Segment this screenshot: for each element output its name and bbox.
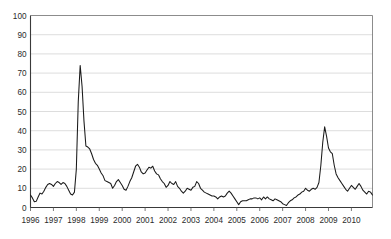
x-tick-label: 2008 (296, 216, 315, 225)
x-tick-label: 1996 (21, 216, 40, 225)
y-tick-label: 100 (13, 12, 27, 21)
x-tick-label: 2002 (159, 216, 178, 225)
y-tick-label: 0 (22, 204, 27, 213)
y-tick-label: 70 (17, 69, 27, 78)
x-tick-label: 1999 (90, 216, 109, 225)
x-tick-label: 2005 (228, 216, 247, 225)
y-tick-label: 10 (17, 184, 27, 193)
chart-container: 0102030405060708090100 19961997199819992… (0, 0, 391, 239)
y-tick-label: 40 (17, 127, 27, 136)
x-tick-label: 2007 (274, 216, 293, 225)
y-tick-label: 50 (17, 108, 27, 117)
x-tick-label: 2001 (136, 216, 155, 225)
y-tick-label: 30 (17, 146, 27, 155)
y-tick-label: 60 (17, 88, 27, 97)
x-tick-label: 2000 (113, 216, 132, 225)
chart-background (0, 0, 391, 239)
y-tick-label: 80 (17, 50, 27, 59)
x-tick-label: 2010 (342, 216, 361, 225)
x-tick-label: 2009 (319, 216, 338, 225)
x-tick-label: 1997 (44, 216, 63, 225)
x-axis-tick-labels: 1996199719981999200020012002200320042005… (21, 216, 361, 225)
y-tick-label: 90 (17, 31, 27, 40)
x-tick-label: 2006 (251, 216, 270, 225)
x-tick-label: 2004 (205, 216, 224, 225)
x-tick-label: 2003 (182, 216, 201, 225)
line-chart: 0102030405060708090100 19961997199819992… (0, 0, 391, 239)
y-tick-label: 20 (17, 165, 27, 174)
x-tick-label: 1998 (67, 216, 86, 225)
